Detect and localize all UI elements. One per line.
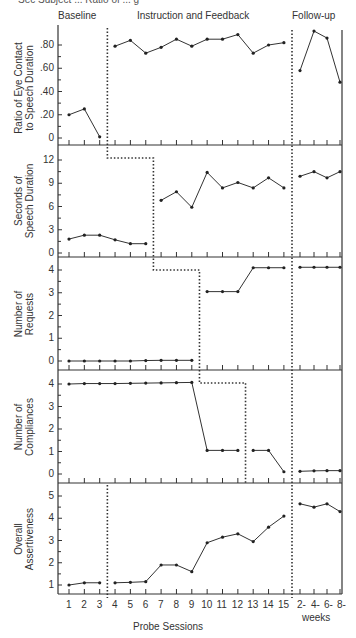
x-tick-label: 5 xyxy=(127,599,133,610)
y-tick-label: 1 xyxy=(48,332,54,343)
x-tick-label: 7 xyxy=(158,599,164,610)
y-axis-title: OverallAssertiveness xyxy=(13,484,35,594)
x-tick-label: 14 xyxy=(263,599,274,610)
y-tick-label: 0 xyxy=(48,132,54,143)
y-tick-label: .80 xyxy=(40,39,54,50)
multiple-baseline-figure: Sec Subject ... Ratio of ... g Baseline … xyxy=(0,0,356,638)
x-axis-title: Probe Sessions xyxy=(133,621,203,632)
y-tick-label: 3 xyxy=(48,401,54,412)
y-tick-label: 4 xyxy=(48,264,54,275)
y-axis-title: Number ofCompliances xyxy=(13,372,35,482)
y-tick-label: 5 xyxy=(48,490,54,501)
followup-tick-label: 6- xyxy=(324,599,333,610)
x-tick-label: 13 xyxy=(247,599,258,610)
x-tick-label: 15 xyxy=(278,599,289,610)
x-tick-label: 4 xyxy=(112,599,118,610)
x-tick-label: 3 xyxy=(97,599,103,610)
followup-tick-label: 4- xyxy=(311,599,320,610)
y-tick-label: 6 xyxy=(48,201,54,212)
y-tick-label: 0 xyxy=(48,355,54,366)
y-tick-label: 2 xyxy=(48,423,54,434)
y-tick-label: .60 xyxy=(40,62,54,73)
y-tick-label: .40 xyxy=(40,86,54,97)
y-tick-label: .20 xyxy=(40,109,54,120)
y-tick-label: 3 xyxy=(48,287,54,298)
y-tick-label: 0 xyxy=(48,247,54,258)
x-tick-label: 8 xyxy=(173,599,179,610)
y-tick-label: 3 xyxy=(48,535,54,546)
followup-tick-label: 2- xyxy=(297,599,306,610)
x-tick-label: 10 xyxy=(201,599,212,610)
y-tick-label: 2 xyxy=(48,557,54,568)
x-tick-label: 6 xyxy=(143,599,149,610)
followup-weeks-label: weeks xyxy=(302,612,330,623)
x-tick-label: 2 xyxy=(81,599,87,610)
x-tick-label: 12 xyxy=(232,599,243,610)
followup-tick-label: 8- xyxy=(337,599,346,610)
y-axis-title: Ratio of Eye Contactto Speech Duration xyxy=(13,33,35,143)
y-tick-label: 0 xyxy=(48,468,54,479)
x-tick-label: 9 xyxy=(189,599,195,610)
y-tick-label: 1 xyxy=(48,579,54,590)
y-tick-label: 9 xyxy=(48,177,54,188)
x-tick-label: 11 xyxy=(217,599,227,610)
y-tick-label: 3 xyxy=(48,224,54,235)
y-tick-label: 4 xyxy=(48,512,54,523)
y-axis-title: Number ofRequests xyxy=(13,259,35,369)
y-tick-label: 4 xyxy=(48,378,54,389)
x-tick-label: 1 xyxy=(66,599,72,610)
y-axis-title: Seconds ofSpeech Duration xyxy=(13,146,35,256)
y-tick-label: 2 xyxy=(48,310,54,321)
y-tick-label: 12 xyxy=(43,154,54,165)
y-tick-label: 1 xyxy=(48,446,54,457)
